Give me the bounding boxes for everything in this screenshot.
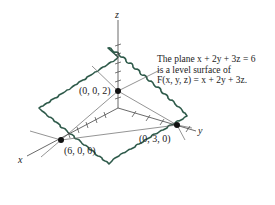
point-y-intercept [174,122,180,128]
z-axis-label: z [115,10,119,20]
figure-caption: The plane x + 2y + 3z = 6 is a level sur… [157,54,255,86]
point-label-y: (0, 3, 0) [139,134,171,144]
caption-line-3: F(x, y, z) = x + 2y + 3z. [157,75,255,86]
point-label-x: (6, 0, 0) [64,146,96,156]
point-z-intercept [115,88,121,94]
caption-line-1: The plane x + 2y + 3z = 6 [157,54,255,65]
level-surface-diagram [0,0,275,205]
caption-line-2: is a level surface of [157,65,255,76]
y-axis-label: y [198,126,202,136]
x-axis-label: x [18,155,22,165]
point-x-intercept [58,137,64,143]
point-label-z: (0, 0, 2) [79,86,111,96]
